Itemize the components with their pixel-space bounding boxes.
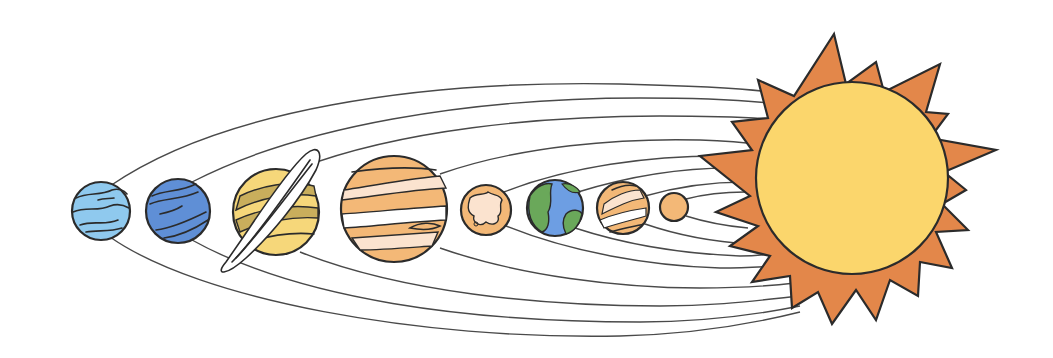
solar-system-illustration [0,0,1053,358]
planet-mars [461,185,511,235]
orbit-saturn-lower [300,252,800,306]
orbits [110,84,800,337]
orbit-mercury [686,192,745,199]
sun-disc [756,82,948,274]
planet-earth [527,180,583,236]
planet-uranus [146,179,210,243]
planet-neptune [72,182,130,240]
planet-venus [597,182,649,234]
sun [700,34,996,324]
planet-mercury [660,193,688,221]
orbit-neptune-lower [110,237,800,336]
orbit-venus [645,182,745,196]
orbit-neptune [110,84,770,186]
planet-jupiter [341,156,447,262]
